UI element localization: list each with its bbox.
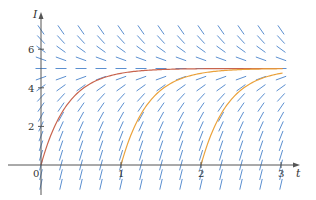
slope-segment: [118, 112, 123, 122]
slope-segment: [257, 85, 266, 91]
x-tick-label: 3: [278, 168, 284, 179]
slope-segment: [80, 179, 82, 190]
slope-segment: [79, 141, 83, 151]
slope-segment: [119, 121, 124, 131]
slope-segment: [239, 141, 243, 151]
slope-segment: [139, 131, 143, 141]
slope-segment: [117, 36, 124, 44]
slope-segment: [117, 46, 126, 52]
slope-segment: [238, 25, 244, 34]
slope-segment: [57, 85, 66, 91]
slope-segment: [118, 25, 124, 34]
slope-segment: [59, 131, 63, 141]
slope-segment: [259, 141, 263, 151]
slope-segment: [238, 112, 243, 122]
slope-segment: [157, 93, 164, 101]
slope-segment: [218, 25, 224, 34]
slope-segment: [196, 76, 206, 80]
slope-segment: [156, 57, 166, 61]
slope-segment: [117, 85, 126, 91]
slope-segment: [236, 57, 246, 61]
slope-segment: [179, 141, 183, 151]
slope-segment: [60, 179, 62, 190]
slope-segment: [198, 112, 203, 122]
slope-segment: [219, 141, 223, 151]
slope-segment: [58, 25, 64, 34]
slope-segment: [120, 179, 122, 190]
y-tick-label: 4: [28, 83, 34, 94]
slope-segment: [57, 93, 64, 101]
slope-segment: [219, 121, 224, 131]
slope-segment: [76, 76, 86, 80]
slope-segment: [217, 85, 226, 91]
slope-segment: [79, 131, 83, 141]
axes: 0123 246 t I: [8, 8, 301, 195]
slope-segment: [257, 46, 266, 52]
slope-segment: [77, 46, 86, 52]
slope-segment: [258, 112, 263, 122]
slope-segment: [197, 93, 204, 101]
slope-segment: [257, 36, 264, 44]
slope-segment: [79, 121, 84, 131]
slope-segment: [239, 121, 244, 131]
slope-segment: [156, 76, 166, 80]
slope-segment: [137, 36, 144, 44]
slope-segment: [198, 25, 204, 34]
slope-segment: [157, 36, 164, 44]
slope-segment: [59, 121, 64, 131]
slope-segment: [279, 150, 282, 161]
slope-segment: [197, 46, 206, 52]
slope-segment: [277, 93, 284, 101]
slope-segment: [178, 112, 183, 122]
slope-segment: [177, 46, 186, 52]
slope-segment: [159, 150, 162, 161]
slope-segment: [138, 25, 144, 34]
slope-segment: [278, 25, 284, 34]
slope-segment: [98, 112, 103, 122]
slope-segment: [220, 169, 223, 180]
slope-segment: [56, 57, 66, 61]
solution-curve: [121, 69, 283, 165]
slope-segment: [260, 169, 263, 180]
slope-segment: [277, 85, 286, 91]
slope-segment: [136, 76, 146, 80]
slope-segment: [79, 150, 82, 161]
slope-segment: [277, 36, 284, 44]
slope-segment: [137, 85, 146, 91]
slope-segment: [278, 103, 284, 112]
slope-segment: [80, 169, 83, 180]
slope-segment: [199, 131, 203, 141]
slope-segment: [100, 169, 103, 180]
slope-segment: [97, 36, 104, 44]
slope-segment: [119, 131, 123, 141]
slope-segment: [98, 25, 104, 34]
slope-segment: [97, 93, 104, 101]
slope-segment: [136, 57, 146, 61]
slope-segment: [180, 169, 183, 180]
y-tick-label: 6: [28, 44, 34, 55]
slope-segment: [180, 179, 182, 190]
slope-segment: [158, 103, 164, 112]
slope-segment: [159, 121, 164, 131]
slope-segment: [239, 131, 243, 141]
slope-segment: [259, 131, 263, 141]
slope-segment: [279, 131, 283, 141]
slope-segment: [177, 93, 184, 101]
slope-segment: [276, 76, 286, 80]
slope-segment: [77, 93, 84, 101]
x-axis-label: t: [296, 167, 301, 180]
slope-segment: [196, 57, 206, 61]
y-axis-arrow-icon: [39, 12, 44, 19]
slope-segment: [256, 57, 266, 61]
slope-segment: [217, 93, 224, 101]
slope-segment: [279, 141, 283, 151]
slope-segment: [199, 121, 204, 131]
slope-segment: [240, 169, 243, 180]
slope-segment: [60, 169, 63, 180]
slope-segment: [258, 103, 264, 112]
slope-segment: [277, 46, 286, 52]
slope-segment: [198, 103, 204, 112]
slope-segment: [258, 25, 264, 34]
slope-segment: [157, 46, 166, 52]
slope-segment: [217, 36, 224, 44]
